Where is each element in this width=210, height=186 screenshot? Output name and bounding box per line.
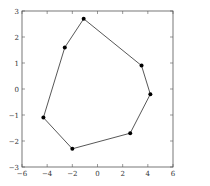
- axes-box: [22, 11, 173, 167]
- polygon-chart: −6−4−20246 −3−2−10123: [0, 0, 210, 186]
- data-point-marker: [148, 92, 152, 96]
- x-tick-label: 2: [120, 170, 124, 178]
- y-tick-label: −1: [9, 112, 19, 120]
- data-point-marker: [82, 17, 86, 21]
- data-point-marker: [70, 147, 74, 151]
- y-tick-label: −2: [9, 138, 19, 146]
- data-point-marker: [63, 45, 67, 49]
- plot-frame: [22, 11, 173, 167]
- y-tick-label: −3: [9, 164, 19, 172]
- data-series: [41, 17, 152, 151]
- x-tick-label: 0: [95, 170, 99, 178]
- x-tick-label: 6: [171, 170, 176, 178]
- y-axis-ticks: −3−2−10123: [9, 8, 173, 172]
- data-point-marker: [128, 131, 132, 135]
- polygon-outline: [43, 19, 150, 149]
- x-tick-label: −2: [67, 170, 77, 178]
- y-tick-label: 2: [15, 34, 19, 42]
- y-tick-label: 1: [15, 60, 19, 68]
- x-tick-label: 4: [146, 170, 151, 178]
- x-tick-label: −4: [42, 170, 53, 178]
- y-tick-label: 0: [15, 86, 19, 94]
- data-point-marker: [41, 116, 45, 120]
- data-point-marker: [140, 64, 144, 68]
- y-tick-label: 3: [15, 8, 19, 16]
